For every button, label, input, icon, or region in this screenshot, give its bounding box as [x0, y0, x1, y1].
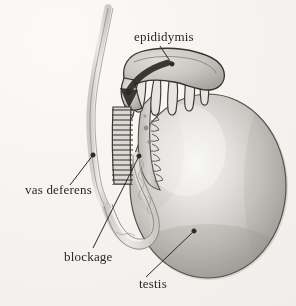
- label-epididymis: epididymis: [134, 29, 194, 45]
- label-blockage: blockage: [64, 249, 113, 265]
- anatomy-illustration: epididymis vas deferens blockage testis: [0, 0, 296, 306]
- label-vas-deferens: vas deferens: [25, 182, 92, 198]
- illustration-canvas: [0, 0, 296, 306]
- label-testis: testis: [139, 276, 167, 292]
